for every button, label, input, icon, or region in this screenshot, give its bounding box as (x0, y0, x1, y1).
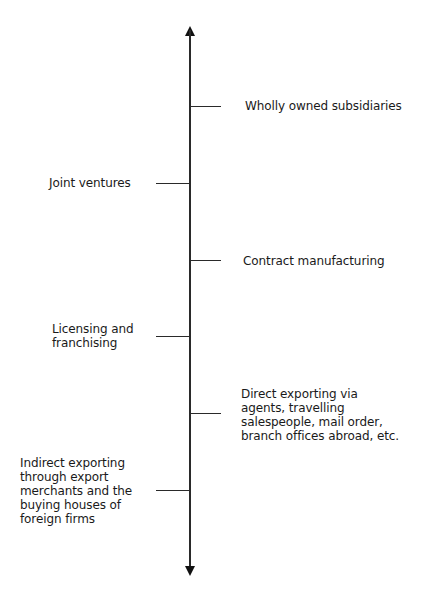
label-licensing-franchising: Licensing and franchising (52, 322, 134, 350)
tick-direct-exporting (190, 413, 221, 414)
label-indirect-exporting: Indirect exporting through export mercha… (20, 456, 132, 526)
tick-licensing-franchising (156, 336, 189, 337)
down-arrow-icon (185, 566, 195, 576)
tick-wholly-owned-subsidiaries (190, 106, 221, 107)
market-entry-continuum-diagram: Wholly owned subsidiaries Joint ventures… (0, 0, 431, 601)
vertical-axis-line (189, 30, 191, 568)
label-joint-ventures: Joint ventures (49, 176, 131, 190)
tick-contract-manufacturing (190, 260, 221, 261)
label-direct-exporting: Direct exporting via agents, travelling … (241, 387, 399, 443)
tick-indirect-exporting (156, 490, 189, 491)
tick-joint-ventures (156, 183, 189, 184)
label-contract-manufacturing: Contract manufacturing (243, 254, 384, 268)
label-wholly-owned-subsidiaries: Wholly owned subsidiaries (245, 99, 402, 113)
